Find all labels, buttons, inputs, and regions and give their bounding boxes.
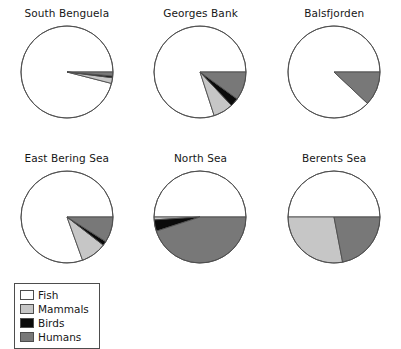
pie-slice-fish [154,171,246,217]
pie-panel: Berents Sea [267,145,401,290]
legend-item: Humans [20,330,94,344]
legend-swatch-fish [20,290,34,300]
legend-swatch-birds [20,318,34,328]
pie-panel: Georges Bank [134,0,268,145]
pie-chart [150,167,250,267]
legend-label: Humans [38,331,81,343]
legend-item: Birds [20,316,94,330]
pie-panel-title: East Bering Sea [25,152,110,165]
legend-label: Fish [38,289,58,301]
pie-chart [284,167,384,267]
pie-panel: North Sea [134,145,268,290]
pie-panel-title: Georges Bank [163,7,238,20]
pie-slice-humans [334,217,380,262]
legend: FishMammalsBirdsHumans [14,283,100,349]
pie-panel-title: South Benguela [24,7,109,20]
legend-swatch-mammals [20,304,34,314]
pie-chart [150,22,250,122]
pie-panel: South Benguela [0,0,134,145]
pie-slice-mammals [288,217,343,263]
pie-slice-fish [288,171,380,217]
legend-label: Birds [38,317,64,329]
pie-chart-grid: South BenguelaGeorges BankBalsfjordenEas… [0,0,401,290]
pie-chart [17,167,117,267]
legend-label: Mammals [38,303,89,315]
legend-item: Mammals [20,302,94,316]
pie-chart [17,22,117,122]
legend-swatch-humans [20,332,34,342]
pie-chart [284,22,384,122]
pie-panel-title: North Sea [174,152,227,165]
pie-panel-title: Balsfjorden [304,7,364,20]
pie-panel-title: Berents Sea [302,152,366,165]
legend-item: Fish [20,288,94,302]
pie-panel: Balsfjorden [267,0,401,145]
pie-panel: East Bering Sea [0,145,134,290]
